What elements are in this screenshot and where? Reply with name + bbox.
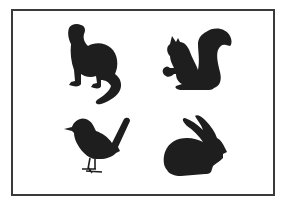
- bird-silhouette: bird: [62, 115, 134, 177]
- figure-frame: Animal silhouettes ferret squirrel bird …: [11, 9, 275, 196]
- rabbit-icon: [161, 112, 236, 178]
- figure-title: Animal silhouettes: [13, 11, 14, 12]
- bird-icon: [62, 115, 134, 177]
- rabbit-silhouette: rabbit: [161, 112, 236, 178]
- squirrel-icon: [160, 24, 235, 94]
- squirrel-silhouette: squirrel: [160, 24, 235, 94]
- ferret-icon: [61, 22, 131, 107]
- ferret-silhouette: ferret: [61, 22, 131, 107]
